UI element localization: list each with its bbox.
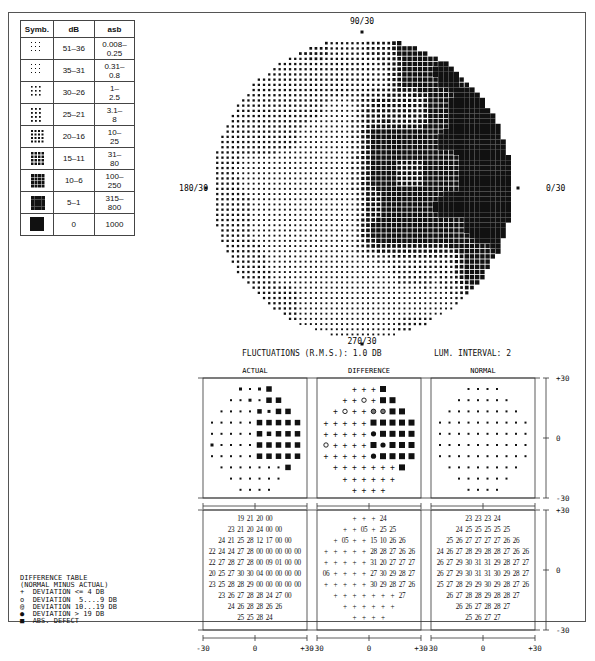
- normal-symbol: [525, 433, 527, 435]
- actual-symbol: [259, 466, 261, 468]
- actual-symbol: [268, 478, 270, 480]
- panel-frame: [203, 378, 307, 498]
- value-cell: 25: [237, 537, 244, 545]
- value-cell: 27: [389, 548, 396, 556]
- value-cell: 25: [484, 526, 491, 534]
- difference-symbol: +: [343, 452, 348, 461]
- value-cell: 28: [256, 603, 263, 611]
- value-cell: +: [353, 526, 357, 534]
- value-cell: 27: [503, 548, 510, 556]
- actual-symbol: [239, 388, 242, 391]
- actual-symbol: [285, 453, 291, 459]
- normal-symbol: [468, 433, 470, 435]
- difference-symbol: [380, 386, 386, 392]
- value-cell: 28: [247, 537, 254, 545]
- actual-symbol: [240, 466, 242, 468]
- value-cell: 26: [522, 548, 529, 556]
- value-cell: 01: [275, 559, 282, 567]
- actual-symbol: [230, 433, 232, 435]
- actual-symbol: [221, 444, 223, 446]
- difference-symbol: +: [362, 463, 367, 472]
- value-cell: 00: [285, 570, 292, 578]
- value-cell: 17: [266, 537, 273, 545]
- difference-symbol: [371, 442, 377, 448]
- value-cell: 00: [285, 559, 292, 567]
- value-cell: 27: [513, 592, 520, 600]
- value-cell: +: [334, 548, 338, 556]
- difference-symbol: [399, 420, 405, 426]
- normal-symbol: [506, 444, 508, 446]
- value-cell: 27: [218, 559, 225, 567]
- normal-symbol: [496, 410, 498, 412]
- normal-symbol: [506, 399, 508, 401]
- normal-symbol: [496, 422, 498, 424]
- value-cell: +: [362, 592, 366, 600]
- actual-symbol: [249, 455, 251, 457]
- value-cell: 00: [294, 559, 301, 567]
- difference-table-legend: DIFFERENCE TABLE (NORMAL MINUS ACTUAL) +…: [20, 575, 117, 625]
- difference-symbol: +: [362, 407, 367, 416]
- value-cell: 27: [399, 592, 406, 600]
- difference-symbol: +: [381, 486, 386, 495]
- value-cell: 31: [475, 570, 482, 578]
- value-cell: 27: [484, 614, 491, 622]
- actual-symbol: [240, 422, 242, 424]
- value-cell: 24: [494, 515, 501, 523]
- difference-symbol: +: [343, 475, 348, 484]
- difference-symbol: [371, 454, 376, 459]
- normal-symbol: [468, 478, 470, 480]
- normal-symbol: [506, 466, 508, 468]
- value-cell: 27: [475, 537, 482, 545]
- normal-symbol: [458, 444, 460, 446]
- value-cell: +: [334, 537, 338, 545]
- value-cell: 27: [522, 559, 529, 567]
- value-cell: 00: [275, 526, 282, 534]
- value-cell: 24: [218, 548, 225, 556]
- difference-symbol: +: [352, 396, 357, 405]
- value-cell: +: [353, 537, 357, 545]
- actual-symbol: [266, 442, 272, 448]
- value-cell: 29: [475, 548, 482, 556]
- normal-symbol: [487, 466, 489, 468]
- actual-symbol: [295, 442, 301, 448]
- difference-symbol: +: [362, 452, 367, 461]
- difference-symbol: [390, 453, 396, 459]
- actual-symbol: [240, 433, 242, 435]
- normal-symbol: [449, 410, 451, 412]
- difference-symbol: +: [343, 463, 348, 472]
- difference-symbol: +: [371, 396, 376, 405]
- actual-symbol: [211, 444, 214, 447]
- difference-symbol: [399, 464, 405, 470]
- value-cell: 04: [256, 570, 263, 578]
- y-tick-label: -30: [556, 494, 570, 503]
- normal-symbol: [458, 399, 460, 401]
- difference-value-grid: +++24++05+2525+05++15102626+++++28282726…: [323, 515, 416, 622]
- actual-symbol: [257, 453, 263, 459]
- value-cell: 27: [484, 537, 491, 545]
- normal-symbol: [449, 422, 451, 424]
- value-cell: 20: [256, 515, 263, 523]
- value-cell: 25: [218, 581, 225, 589]
- value-cell: 25: [465, 614, 472, 622]
- difference-symbol: [409, 431, 415, 437]
- difference-symbol: [371, 409, 376, 414]
- normal-symbol: [477, 388, 479, 390]
- value-cell: 29: [465, 581, 472, 589]
- value-cell: 26: [437, 570, 444, 578]
- value-cell: 27: [408, 559, 415, 567]
- difference-symbol: +: [352, 385, 357, 394]
- difference-symbol: +: [352, 419, 357, 428]
- value-cell: 31: [484, 570, 491, 578]
- x-tick-label: 0: [367, 644, 372, 653]
- value-cell: 29: [456, 559, 463, 567]
- value-cell: 00: [256, 548, 263, 556]
- difference-symbol: +: [371, 385, 376, 394]
- normal-symbol: [439, 455, 441, 457]
- value-cell: +: [353, 570, 357, 578]
- difference-symbol: [380, 431, 386, 437]
- actual-symbol: [221, 466, 223, 468]
- normal-symbol: [515, 466, 517, 468]
- actual-symbol: [295, 420, 301, 426]
- value-cell: 27: [513, 559, 520, 567]
- value-cell: +: [334, 570, 338, 578]
